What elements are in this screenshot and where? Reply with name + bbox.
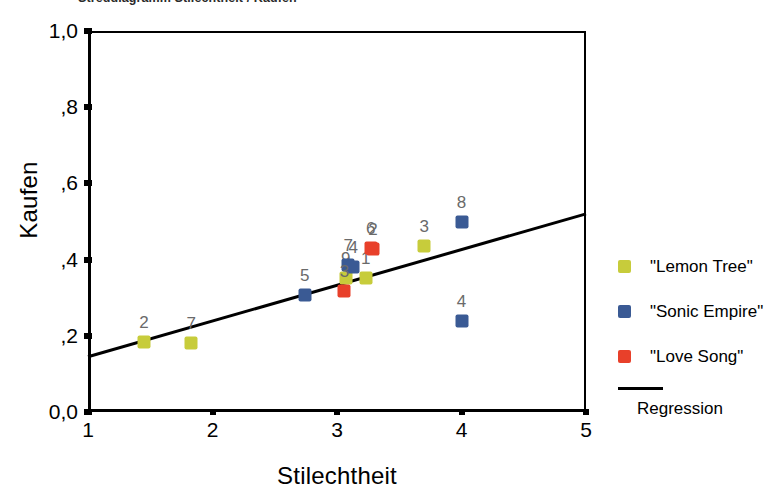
legend-item: "Sonic Empire" <box>618 289 770 334</box>
data-point-marker <box>455 315 468 328</box>
data-point-label: 8 <box>457 193 466 213</box>
data-point-marker <box>185 337 198 350</box>
legend-regression-entry: Regression <box>618 387 770 419</box>
x-tick-label: 4 <box>456 418 468 442</box>
x-tick-label: 3 <box>331 418 343 442</box>
y-tick-label: ,8 <box>60 95 78 119</box>
data-point-label: 3 <box>419 217 428 237</box>
x-axis-title: Stilechtheit <box>88 462 586 490</box>
legend-swatch-icon <box>618 350 631 363</box>
data-point-label: 4 <box>457 292 466 312</box>
data-point-label: 3 <box>340 262 349 282</box>
y-tick-label: ,6 <box>60 171 78 195</box>
chart-title: Streudiagramm Stilechtheit / Kaufen <box>78 0 408 5</box>
data-point-marker <box>138 335 151 348</box>
data-point-label: 2 <box>368 220 377 240</box>
data-point-marker <box>298 289 311 302</box>
x-tick-label: 2 <box>207 418 219 442</box>
legend-swatch-icon <box>618 305 631 318</box>
data-point-label: 7 <box>187 314 196 334</box>
data-point-label: 4 <box>348 238 357 258</box>
legend-item: "Love Song" <box>618 334 770 379</box>
plot-data-area: 2791357484362 <box>88 31 586 412</box>
legend-item-label: "Lemon Tree" <box>650 257 753 277</box>
data-point-marker <box>418 239 431 252</box>
x-tick-label: 1 <box>82 418 94 442</box>
data-point-label: 5 <box>300 266 309 286</box>
data-point-marker <box>338 285 351 298</box>
x-tick-label: 5 <box>580 418 592 442</box>
legend-item-label: "Sonic Empire" <box>650 302 763 322</box>
legend: "Lemon Tree""Sonic Empire""Love Song" Re… <box>618 244 770 419</box>
legend-regression-line-icon <box>618 387 663 390</box>
y-tick-label: ,2 <box>60 324 78 348</box>
y-axis-title: Kaufen <box>15 115 43 285</box>
y-tick-label: ,4 <box>60 248 78 272</box>
y-tick-label: 1,0 <box>49 19 78 43</box>
legend-series-list: "Lemon Tree""Sonic Empire""Love Song" <box>618 244 770 379</box>
legend-regression-label: Regression <box>637 399 770 419</box>
legend-item-label: "Love Song" <box>650 347 743 367</box>
regression-line <box>88 31 586 412</box>
regression-line-segment <box>88 214 586 357</box>
x-axis-tick-labels: 12345 <box>88 418 586 452</box>
data-point-label: 2 <box>139 313 148 333</box>
data-point-marker <box>455 216 468 229</box>
data-point-marker <box>359 271 372 284</box>
data-point-marker <box>367 243 380 256</box>
legend-swatch-icon <box>618 260 631 273</box>
legend-item: "Lemon Tree" <box>618 244 770 289</box>
y-tick-label: 0,0 <box>49 400 78 424</box>
scatter-plot-figure: Streudiagramm Stilechtheit / Kaufen 0,0,… <box>0 0 773 504</box>
